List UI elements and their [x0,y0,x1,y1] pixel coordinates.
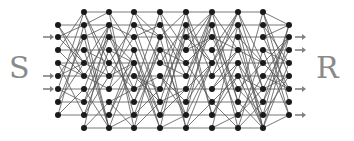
network-diagram [0,0,354,141]
edges [58,12,289,128]
